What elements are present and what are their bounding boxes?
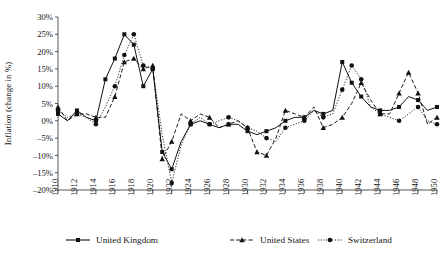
y-tick-label: –15% bbox=[32, 168, 53, 178]
data-point bbox=[169, 181, 174, 186]
x-tick-label: 1948 bbox=[410, 179, 420, 196]
data-point bbox=[264, 129, 268, 133]
legend-marker bbox=[76, 238, 80, 242]
data-point bbox=[245, 125, 250, 130]
data-point bbox=[321, 115, 326, 120]
data-point bbox=[283, 119, 287, 123]
y-tick-label: 20% bbox=[37, 47, 53, 57]
data-point bbox=[397, 119, 402, 124]
y-axis-title-text: Inflation (change in %) bbox=[3, 62, 13, 146]
data-point bbox=[349, 63, 354, 68]
x-tick-label: 1936 bbox=[296, 178, 306, 196]
data-point bbox=[302, 119, 307, 124]
data-point bbox=[56, 108, 61, 113]
x-tick-label: 1914 bbox=[88, 178, 98, 196]
y-tick-label: 0% bbox=[42, 116, 53, 126]
x-tick-label: 1942 bbox=[353, 179, 363, 196]
data-point bbox=[75, 112, 80, 117]
data-point bbox=[359, 95, 363, 99]
data-point bbox=[350, 81, 354, 85]
data-point bbox=[150, 67, 155, 72]
data-point bbox=[283, 125, 288, 130]
data-point bbox=[141, 63, 146, 68]
y-axis-title: Inflation (change in %) bbox=[3, 62, 13, 146]
data-point bbox=[226, 115, 231, 120]
data-point bbox=[416, 105, 421, 110]
legend-label: Switzerland bbox=[348, 235, 392, 245]
y-tick-label: 10% bbox=[37, 81, 53, 91]
data-point bbox=[397, 105, 401, 109]
data-point bbox=[132, 43, 136, 47]
x-tick-label: 1944 bbox=[372, 178, 382, 196]
x-tick-label: 1930 bbox=[240, 179, 250, 196]
x-tick-label: 1934 bbox=[277, 178, 287, 196]
y-tick-label: 15% bbox=[37, 64, 53, 74]
data-point bbox=[113, 57, 117, 61]
data-point bbox=[340, 87, 345, 92]
x-tick-label: 1926 bbox=[202, 178, 212, 196]
y-tick-label: 30% bbox=[37, 12, 53, 22]
x-tick-label: 1924 bbox=[183, 178, 193, 196]
x-tick-label: 1918 bbox=[126, 179, 136, 196]
x-tick-label: 1938 bbox=[315, 179, 325, 196]
data-point bbox=[435, 105, 439, 109]
legend-label: United Kingdom bbox=[96, 235, 158, 245]
data-point bbox=[113, 84, 118, 89]
data-point bbox=[170, 167, 174, 171]
y-tick-label: –5% bbox=[36, 133, 53, 143]
x-axis-tick-labels: 1910191219141916191819201922192419261928… bbox=[50, 178, 439, 196]
y-tick-label: 5% bbox=[42, 99, 53, 109]
data-point bbox=[359, 77, 364, 82]
inflation-line-chart: Inflation (change in %) 30%25%20%15%10%5… bbox=[0, 0, 444, 254]
data-point bbox=[94, 122, 99, 127]
y-tick-label: 25% bbox=[37, 29, 53, 39]
data-point bbox=[188, 122, 193, 127]
chart-canvas: Inflation (change in %) 30%25%20%15%10%5… bbox=[0, 0, 444, 254]
data-point bbox=[103, 77, 107, 81]
x-tick-label: 1946 bbox=[391, 178, 401, 196]
x-tick-label: 1932 bbox=[258, 179, 268, 196]
data-point bbox=[122, 32, 126, 36]
x-tick-label: 1916 bbox=[107, 178, 117, 196]
y-tick-label: –10% bbox=[32, 151, 53, 161]
data-point bbox=[141, 84, 145, 88]
data-point bbox=[207, 122, 212, 127]
data-point bbox=[160, 150, 164, 154]
data-point bbox=[340, 60, 344, 64]
x-tick-label: 1940 bbox=[334, 179, 344, 196]
legend-label: United States bbox=[260, 235, 310, 245]
x-tick-label: 1950 bbox=[429, 179, 439, 196]
data-point bbox=[132, 32, 137, 37]
x-tick-label: 1912 bbox=[69, 179, 79, 196]
x-tick-label: 1910 bbox=[50, 179, 60, 196]
legend-marker bbox=[328, 238, 333, 243]
data-point bbox=[378, 112, 383, 117]
data-point bbox=[264, 136, 269, 141]
x-tick-label: 1928 bbox=[221, 179, 231, 196]
x-tick-label: 1920 bbox=[145, 179, 155, 196]
data-point bbox=[435, 122, 440, 127]
data-point bbox=[122, 53, 127, 58]
